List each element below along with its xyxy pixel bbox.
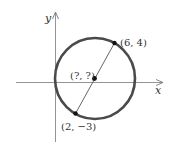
x-axis-label: x xyxy=(155,84,162,97)
point-endpoint-a xyxy=(112,41,116,45)
coordinate-diagram: y x (6, 4) (?, ?) (2, −3) xyxy=(0,0,170,147)
label-endpoint-a: (6, 4) xyxy=(120,37,147,48)
point-endpoint-b xyxy=(73,111,77,115)
y-axis-label: y xyxy=(44,12,52,25)
label-center: (?, ?) xyxy=(70,70,95,81)
label-endpoint-b: (2, −3) xyxy=(61,121,96,132)
